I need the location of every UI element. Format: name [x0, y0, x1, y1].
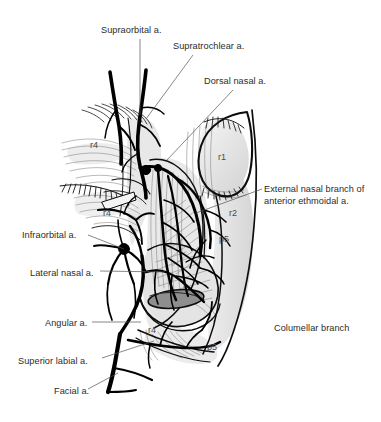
label-supratrochlear-artery: Supratrochlear a.	[173, 41, 244, 53]
region-marker-r4-brow: r4	[90, 140, 98, 150]
label-infraorbital-artery: Infraorbital a.	[22, 230, 76, 242]
region-marker-r4-ala: r4	[148, 325, 156, 335]
label-superior-labial-artery: Superior labial a.	[18, 356, 88, 368]
region-marker-p5-lower: p5	[207, 342, 217, 352]
region-marker-r2-dorsum: r2	[229, 208, 237, 218]
region-marker-r1-tip: r1	[218, 152, 226, 162]
label-dorsal-nasal-artery: Dorsal nasal a.	[204, 76, 266, 88]
label-angular-artery: Angular a.	[45, 318, 87, 330]
facial-artery	[108, 334, 120, 392]
label-supraorbital-artery: Supraorbital a.	[101, 25, 162, 37]
region-marker-r4-cheek: r4	[103, 208, 111, 218]
region-marker-p5-upper: p5	[219, 234, 229, 244]
label-lateral-nasal-artery: Lateral nasal a.	[30, 268, 94, 280]
leader-superior-labial-line	[102, 341, 154, 358]
label-facial-artery: Facial a.	[54, 386, 89, 398]
label-columellar-branch: Columellar branch	[274, 323, 349, 335]
label-external-nasal-branch-line2: anterior ethmoidal a.	[264, 196, 349, 208]
nasal-artery-figure: Supraorbital a. Supratrochlear a. Dorsal…	[0, 0, 381, 422]
leader-facial-line	[88, 373, 118, 389]
leader-infraorbital-line	[88, 235, 124, 249]
label-external-nasal-branch-line1: External nasal branch of	[264, 184, 364, 196]
leader-supratrochlear-line	[146, 55, 193, 119]
